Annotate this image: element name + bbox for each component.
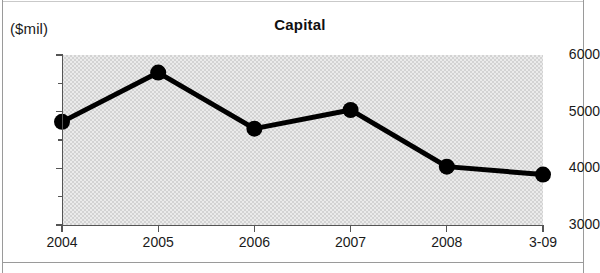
figure-border-left — [2, 0, 3, 273]
line-series-svg — [62, 55, 543, 225]
data-point-2007 — [343, 102, 359, 118]
x-tick — [446, 225, 447, 232]
x-tick-label: 2004 — [22, 234, 102, 250]
x-tick — [254, 225, 255, 232]
x-axis-line — [62, 225, 544, 226]
figure-border-right — [583, 0, 584, 273]
data-point-2005 — [150, 65, 166, 81]
y-tick-major — [56, 168, 63, 169]
data-point-2006 — [246, 121, 262, 137]
y-tick-minor — [58, 83, 63, 84]
x-tick — [350, 225, 351, 232]
y-tick-label: 4000 — [548, 159, 600, 175]
y-tick-label: 5000 — [548, 103, 600, 119]
plot-area — [62, 55, 543, 225]
y-tick-minor — [58, 196, 63, 197]
x-tick-label: 2005 — [118, 234, 198, 250]
x-tick-label: 2006 — [214, 234, 294, 250]
x-tick-label: 2008 — [407, 234, 487, 250]
x-tick-label: 2007 — [311, 234, 391, 250]
y-tick-major — [56, 111, 63, 112]
x-tick-label: 3-09 — [503, 234, 583, 250]
series-markers-capital — [54, 65, 551, 183]
y-tick-major — [56, 54, 63, 55]
x-tick — [61, 225, 62, 232]
y-tick-label: 6000 — [548, 46, 600, 62]
series-line-capital — [62, 73, 543, 175]
chart-title: Capital — [0, 16, 600, 33]
y-tick-minor — [58, 139, 63, 140]
x-tick — [158, 225, 159, 232]
data-point-2008 — [439, 159, 455, 175]
x-tick — [542, 225, 543, 232]
figure-border-bottom — [2, 262, 584, 263]
figure-border-top — [2, 1, 584, 2]
y-tick-label: 3000 — [548, 216, 600, 232]
chart-figure: ($mil) Capital 3000400050006000 20042005… — [0, 0, 600, 273]
